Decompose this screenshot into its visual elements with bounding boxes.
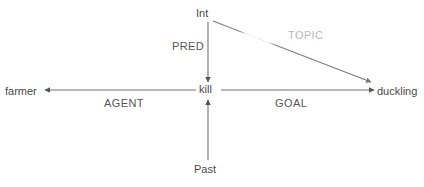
node-int: Int	[196, 7, 208, 19]
node-kill: kill	[199, 83, 212, 95]
node-past: Past	[194, 163, 216, 175]
node-farmer: farmer	[5, 85, 37, 97]
edge-label-pred: PRED	[172, 40, 204, 52]
semantic-network-diagram: Int kill farmer duckling Past PRED AGENT…	[0, 0, 424, 187]
edge-label-topic: TOPIC	[288, 29, 323, 41]
graph-edges-canvas	[0, 0, 424, 187]
node-duckling: duckling	[377, 85, 417, 97]
edge-label-agent: AGENT	[104, 97, 144, 109]
edge-label-goal: GOAL	[275, 97, 307, 109]
